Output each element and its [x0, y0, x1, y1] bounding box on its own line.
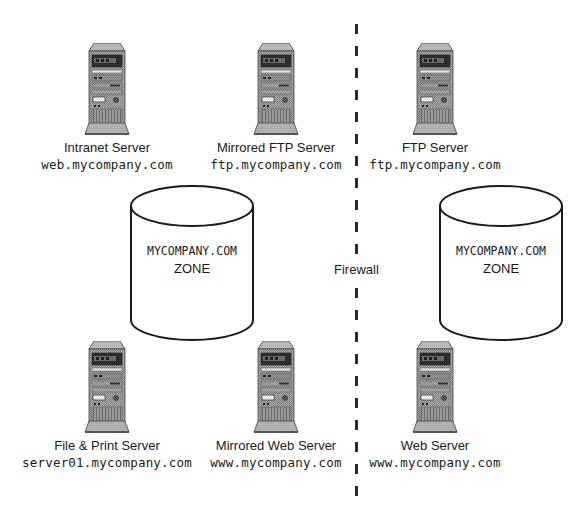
external-zone-cylinder: MYCOMPANY.COM ZONE: [437, 183, 565, 343]
server-domain: www.mycompany.com: [345, 454, 525, 471]
server-tower-icon: [253, 43, 299, 135]
file-print-server: File & Print Server server01.mycompany.c…: [17, 341, 197, 471]
zone-type: ZONE: [437, 261, 565, 276]
server-tower-icon: [84, 341, 130, 433]
server-domain: ftp.mycompany.com: [186, 156, 366, 173]
server-label: Mirrored FTP Server: [186, 140, 366, 156]
server-domain: web.mycompany.com: [17, 156, 197, 173]
server-tower-icon: [84, 43, 130, 135]
server-domain: server01.mycompany.com: [17, 454, 197, 471]
firewall-label: Firewall: [333, 262, 380, 277]
ftp-server: FTP Server ftp.mycompany.com: [345, 43, 525, 173]
mirrored-web-server: Mirrored Web Server www.mycompany.com: [186, 341, 366, 471]
server-domain: ftp.mycompany.com: [345, 156, 525, 173]
zone-name: MYCOMPANY.COM: [437, 244, 565, 258]
server-tower-icon: [412, 341, 458, 433]
zone-name: MYCOMPANY.COM: [128, 244, 256, 258]
server-label: Mirrored Web Server: [186, 438, 366, 454]
server-tower-icon: [412, 43, 458, 135]
web-server: Web Server www.mycompany.com: [345, 341, 525, 471]
server-label: File & Print Server: [17, 438, 197, 454]
zone-type: ZONE: [128, 261, 256, 276]
server-label: Intranet Server: [17, 140, 197, 156]
server-label: FTP Server: [345, 140, 525, 156]
intranet-server: Intranet Server web.mycompany.com: [17, 43, 197, 173]
network-diagram: Intranet Server web.mycompany.com Mirror…: [0, 0, 581, 518]
server-label: Web Server: [345, 438, 525, 454]
mirrored-ftp-server: Mirrored FTP Server ftp.mycompany.com: [186, 43, 366, 173]
internal-zone-cylinder: MYCOMPANY.COM ZONE: [128, 183, 256, 343]
server-tower-icon: [253, 341, 299, 433]
server-domain: www.mycompany.com: [186, 454, 366, 471]
